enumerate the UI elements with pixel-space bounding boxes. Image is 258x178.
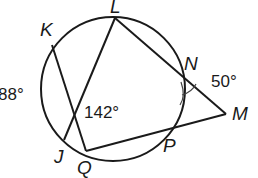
label-j: J <box>53 146 64 167</box>
label-angle-m: 50° <box>211 72 237 91</box>
secant-lm <box>115 18 226 114</box>
label-n: N <box>184 53 198 74</box>
label-angle-intersection: 142° <box>84 103 119 122</box>
label-p: P <box>163 135 176 156</box>
label-l: L <box>110 0 121 17</box>
geometry-diagram: K L N J Q P M 88° 142° 50° <box>0 0 258 178</box>
label-m: M <box>232 103 248 124</box>
angle-arc-m <box>180 82 183 105</box>
label-k: K <box>40 19 54 40</box>
label-arc-kj: 88° <box>0 85 24 104</box>
label-q: Q <box>77 157 92 178</box>
